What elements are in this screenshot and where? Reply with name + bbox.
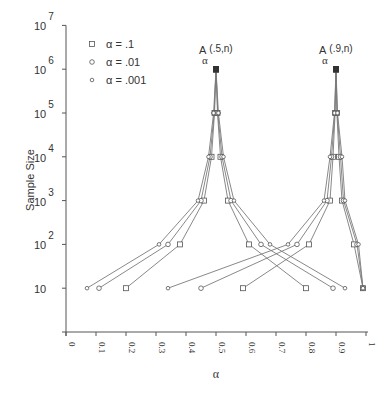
data-point-circle (90, 60, 95, 65)
data-point-circle (199, 286, 204, 291)
legend-item: α = .1 (90, 38, 135, 50)
y-tick-label: 107 (34, 11, 54, 32)
annotation-subscript: α (202, 54, 208, 66)
legend-label: α = .01 (106, 56, 140, 68)
series-line (126, 69, 216, 288)
x-tick-label: 0 (67, 342, 77, 347)
legend: α = .1α = .01α = .001 (90, 38, 147, 86)
data-point-small-circle (340, 155, 344, 159)
data-point-square (304, 286, 309, 291)
data-point-small-circle (90, 78, 94, 82)
data-point-small-circle (166, 286, 170, 290)
series-line (99, 69, 216, 288)
data-point-small-circle (343, 286, 347, 290)
series-markers (214, 67, 309, 291)
series-line (216, 69, 333, 288)
data-point (334, 67, 339, 72)
series-group (85, 67, 365, 291)
data-point (214, 67, 219, 72)
legend-label: α = .1 (106, 38, 134, 50)
annotations: A(.5,n)αA(.9,n)α (199, 43, 353, 66)
data-point-small-circle (222, 155, 226, 159)
data-point-square (307, 242, 312, 247)
x-tick-label: 0.5 (217, 342, 227, 354)
y-tick-label: 106 (34, 55, 54, 76)
data-point-circle (166, 242, 171, 247)
data-point-small-circle (322, 199, 326, 203)
x-tick-label: 0.2 (127, 342, 137, 353)
data-point-square (124, 286, 129, 291)
data-point-square (247, 242, 252, 247)
y-tick-label: 103 (34, 187, 54, 208)
data-point-small-circle (85, 286, 89, 290)
chart-canvas: 1010210310410510610700.10.20.30.40.50.60… (0, 0, 390, 396)
data-point-small-circle (207, 155, 211, 159)
legend-item: α = .01 (90, 56, 140, 68)
series-line (168, 69, 336, 288)
x-tick-label: 0.4 (187, 342, 197, 354)
x-tick-label: 1 (367, 342, 377, 347)
data-point-circle (259, 242, 264, 247)
y-tick-label: 104 (34, 143, 54, 164)
data-point-circle (331, 286, 336, 291)
legend-item: α = .001 (90, 74, 146, 86)
x-tick-label: 0.3 (157, 342, 167, 354)
series-markers (214, 67, 336, 291)
data-point-small-circle (157, 243, 161, 247)
data-point-square (241, 286, 246, 291)
series-line (201, 69, 336, 288)
data-point-small-circle (286, 243, 290, 247)
annotation-subscript: α (322, 54, 328, 66)
data-point-small-circle (232, 199, 236, 203)
legend-label: α = .001 (106, 74, 146, 86)
data-point-small-circle (328, 155, 332, 159)
y-tick-label: 10 (34, 283, 46, 295)
data-point-small-circle (196, 199, 200, 203)
data-point-small-circle (336, 111, 340, 115)
data-point-circle (97, 286, 102, 291)
x-tick-label: 0.9 (337, 342, 347, 354)
data-point-small-circle (268, 243, 272, 247)
curve-annotation: A(.9,n)α (319, 43, 353, 66)
y-tick-label: 102 (34, 230, 54, 251)
series-markers (334, 67, 366, 291)
x-tick-label: 0.1 (97, 342, 107, 353)
data-point-small-circle (217, 111, 221, 115)
series-markers (166, 67, 338, 290)
series-markers (334, 67, 366, 291)
y-tick-label: 105 (34, 99, 54, 120)
curve-annotation: A(.5,n)α (199, 43, 233, 66)
data-point-small-circle (343, 199, 347, 203)
data-point-circle (295, 242, 300, 247)
data-point-square (178, 242, 183, 247)
x-tick-label: 0.8 (307, 342, 317, 354)
y-axis-title: Sample Size (24, 149, 36, 211)
series-markers (85, 67, 218, 290)
data-point-small-circle (357, 243, 361, 247)
series-markers (97, 67, 219, 291)
x-axis-title: α (213, 367, 220, 381)
series-line (216, 69, 345, 288)
x-tick-label: 0.7 (277, 342, 287, 354)
data-point-square (90, 42, 95, 47)
x-tick-label: 0.6 (247, 342, 257, 354)
data-point-small-circle (361, 286, 365, 290)
data-point-small-circle (212, 111, 216, 115)
